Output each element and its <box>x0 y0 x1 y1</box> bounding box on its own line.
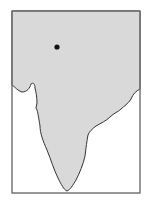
location-marker <box>54 44 59 49</box>
map <box>0 0 148 204</box>
